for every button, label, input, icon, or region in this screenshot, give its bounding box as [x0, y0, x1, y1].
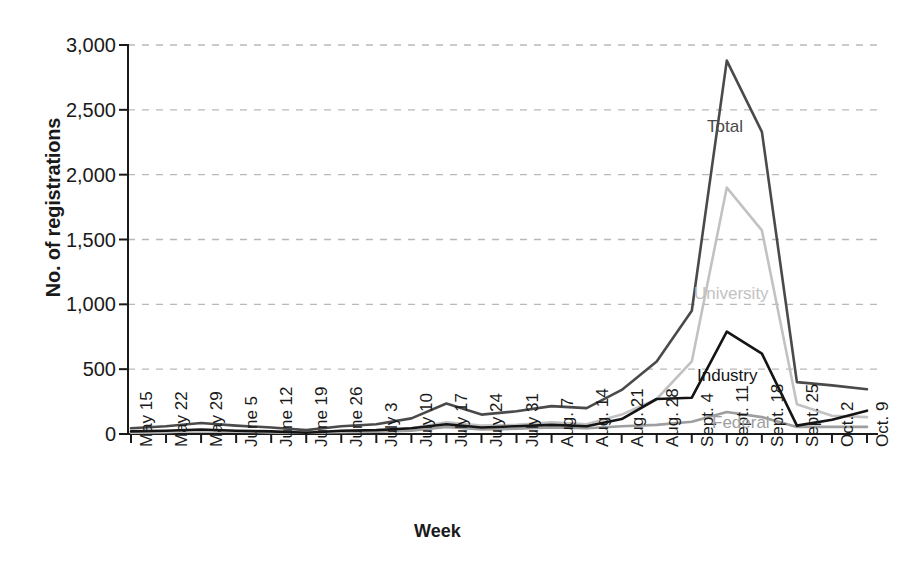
- x-axis-tick-label: July 10: [417, 393, 437, 447]
- x-axis-tick-label: July 31: [523, 393, 543, 447]
- x-axis-tick-label: July 17: [452, 393, 472, 447]
- x-axis-tick-label: May 22: [172, 391, 192, 447]
- x-axis-tick-label: June 19: [312, 387, 332, 448]
- x-axis-tick-label: Aug. 28: [663, 388, 683, 447]
- x-axis-tick-label: Oct. 9: [873, 402, 893, 447]
- x-axis-tick-label: June 26: [347, 387, 367, 448]
- series-label-federal: Federal: [712, 413, 770, 433]
- series-label-university: University: [694, 284, 769, 304]
- x-axis-tick-label: Oct. 2: [838, 402, 858, 447]
- x-axis-tick-label: Aug. 7: [558, 398, 578, 447]
- x-axis-tick-label: July 24: [487, 393, 507, 447]
- x-axis-tick-label: Sept. 25: [803, 384, 823, 447]
- registrations-line-chart: No. of registrations 05001,0001,5002,000…: [0, 0, 897, 571]
- x-axis-tick-label: Aug. 21: [628, 388, 648, 447]
- x-axis-tick-label: July 3: [382, 403, 402, 447]
- x-axis-tick-label: June 5: [242, 396, 262, 447]
- series-label-industry: Industry: [697, 366, 757, 386]
- x-axis-tick-label: June 12: [277, 387, 297, 448]
- x-axis-tick-label: May 29: [207, 391, 227, 447]
- x-axis-tick-label: Sept. 18: [768, 384, 788, 447]
- series-label-total: Total: [707, 117, 743, 137]
- x-axis-tick-label: Aug. 14: [593, 388, 613, 447]
- x-axis-tick-label: May 15: [137, 391, 157, 447]
- x-axis-title: Week: [414, 521, 461, 542]
